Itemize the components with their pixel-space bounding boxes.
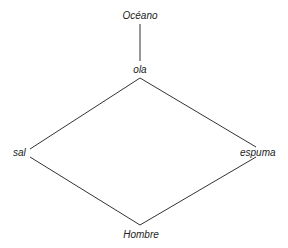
node-espuma: espuma [240, 147, 276, 159]
node-ola: ola [133, 64, 146, 76]
node-sal: sal [13, 147, 26, 159]
edge-espuma-hombre [140, 157, 256, 225]
node-oceano: Océano [122, 10, 157, 22]
node-hombre: Hombre [123, 229, 159, 241]
edge-sal-hombre [30, 157, 140, 225]
diagram-edges [0, 0, 288, 248]
edge-ola-espuma [140, 78, 256, 147]
edge-ola-sal [30, 78, 140, 149]
